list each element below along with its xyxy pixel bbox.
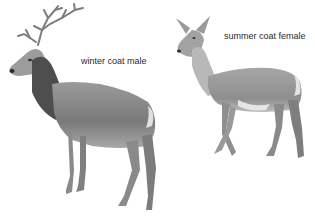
male-deer [10, 4, 157, 210]
label-winter-coat-male: winter coat male [81, 56, 147, 66]
deer-illustration: winter coat male summer coat female [0, 0, 315, 221]
label-summer-coat-female: summer coat female [224, 31, 306, 41]
